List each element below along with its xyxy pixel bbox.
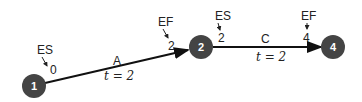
diagram-canvas: A t = 2 ES 0 EF 2 C t = 2 ES 2 EF 4 1 2 …: [0, 0, 362, 102]
edge-a-ef-value: 2: [168, 39, 175, 53]
node-2-label: 2: [198, 41, 204, 53]
edge-a-activity: A: [113, 54, 121, 68]
node-1-label: 1: [31, 80, 37, 92]
edge-a-ef-label: EF: [158, 15, 173, 29]
edge-a-duration: t = 2: [104, 69, 134, 83]
es-pointer-icon: [42, 57, 47, 66]
node-4-label: 4: [330, 41, 337, 53]
es-pointer-icon: [218, 23, 220, 30]
edge-a-es-label: ES: [37, 43, 53, 57]
node-2: 2: [189, 35, 213, 59]
edge-c-ef-label: EF: [301, 9, 316, 23]
edge-c-ef-value: 4: [303, 31, 310, 45]
node-4: 4: [321, 35, 345, 59]
edge-a-es-value: 0: [50, 63, 57, 77]
edge-c-es-label: ES: [215, 9, 231, 23]
edge-c-activity: C: [261, 32, 270, 46]
edge-c-duration: t = 2: [256, 50, 286, 64]
edge-c-es-value: 2: [218, 31, 225, 45]
network-diagram: A t = 2 ES 0 EF 2 C t = 2 ES 2 EF 4 1 2 …: [0, 0, 362, 102]
node-1: 1: [22, 74, 46, 98]
ef-pointer-icon: [163, 29, 168, 38]
